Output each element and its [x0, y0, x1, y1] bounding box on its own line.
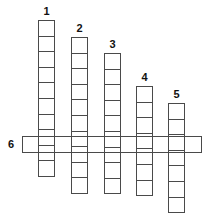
grid-cell[interactable] [104, 178, 121, 195]
grid-cell[interactable] [168, 165, 185, 182]
grid-cell[interactable] [38, 20, 55, 37]
clue-number-6: 6 [8, 138, 14, 150]
grid-cell[interactable] [168, 103, 185, 120]
down-entry-5 [168, 103, 185, 213]
clue-number-5: 5 [168, 88, 185, 100]
grid-cell[interactable] [38, 114, 55, 131]
grid-cell[interactable] [104, 53, 121, 70]
down-entry-3 [104, 53, 121, 194]
grid-cell[interactable] [71, 68, 88, 85]
grid-cell[interactable] [38, 160, 55, 177]
grid-cell[interactable] [71, 37, 88, 54]
grid-cell[interactable] [71, 53, 88, 70]
grid-cell[interactable] [136, 117, 153, 134]
grid-cell[interactable] [168, 181, 185, 198]
grid-cell[interactable] [38, 98, 55, 115]
clue-number-4: 4 [136, 71, 153, 83]
grid-cell[interactable] [38, 67, 55, 84]
grid-cell[interactable] [104, 84, 121, 101]
clue-number-3: 3 [104, 38, 121, 50]
grid-cell[interactable] [104, 69, 121, 86]
grid-cell[interactable] [136, 180, 153, 197]
clue-number-2: 2 [71, 22, 88, 34]
grid-cell[interactable] [71, 177, 88, 194]
grid-cell[interactable] [136, 164, 153, 181]
grid-cell[interactable] [104, 100, 121, 117]
down-entry-2 [71, 37, 88, 194]
grid-cell[interactable] [38, 36, 55, 53]
grid-cell[interactable] [136, 102, 153, 119]
grid-cell[interactable] [136, 86, 153, 103]
grid-cell[interactable] [104, 162, 121, 179]
grid-cell[interactable] [71, 162, 88, 179]
across-entry-6[interactable] [22, 136, 202, 153]
grid-cell[interactable] [168, 119, 185, 136]
clue-number-1: 1 [38, 5, 55, 17]
grid-cell[interactable] [38, 51, 55, 68]
grid-cell[interactable] [168, 197, 185, 214]
grid-cell[interactable] [71, 84, 88, 101]
grid-cell[interactable] [104, 115, 121, 132]
grid-cell[interactable] [38, 82, 55, 99]
grid-cell[interactable] [71, 115, 88, 132]
grid-cell[interactable] [71, 99, 88, 116]
down-entry-1 [38, 20, 55, 177]
